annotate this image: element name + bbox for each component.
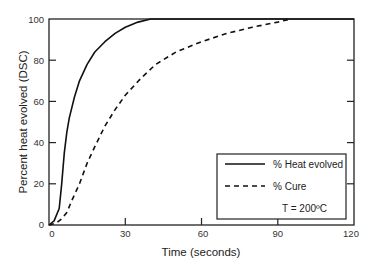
ytick-0: 0 <box>39 219 44 230</box>
xtick-30: 30 <box>120 228 131 239</box>
legend: % Heat evolved % Cure T = 200ºC <box>217 154 346 219</box>
ytick-20: 20 <box>33 178 44 189</box>
xtick-90: 90 <box>273 228 284 239</box>
ytick-100: 100 <box>28 14 44 25</box>
ytick-80: 80 <box>33 55 44 66</box>
temperature-annotation: T = 200ºC <box>282 203 327 214</box>
legend-cure-label: % Cure <box>273 181 307 192</box>
y-axis-label: Percent heat evolved (DSC) <box>17 50 29 193</box>
x-axis-label: Time (seconds) <box>162 246 241 258</box>
chart: 0 20 40 60 80 100 0 30 60 90 120 Time (s… <box>0 0 377 271</box>
ytick-60: 60 <box>33 96 44 107</box>
xtick-60: 60 <box>198 228 209 239</box>
xtick-0: 0 <box>49 228 54 239</box>
legend-heat-label: % Heat evolved <box>273 159 343 170</box>
ytick-40: 40 <box>33 137 44 148</box>
xtick-120: 120 <box>343 228 359 239</box>
